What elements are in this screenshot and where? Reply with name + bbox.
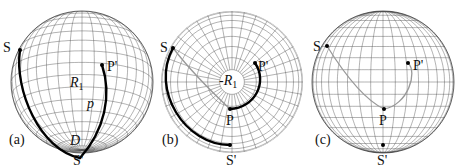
point-p-b xyxy=(228,107,232,111)
label-s-b: S xyxy=(160,40,168,55)
label-pprime-a: P' xyxy=(107,59,117,74)
label-d-a: D xyxy=(69,133,80,148)
panel-c: S P' P (c) S' xyxy=(312,11,454,167)
label-p-c: P xyxy=(379,113,387,128)
label-r1-b: -R1 xyxy=(219,73,237,90)
caption-c: (c) xyxy=(315,132,331,148)
path-s-to-sprime-b xyxy=(166,48,230,145)
figure: S P' R1 p D (a) S' S P' -R1 P (b) S' S P… xyxy=(0,0,455,167)
point-s-b xyxy=(171,46,175,50)
point-s-a xyxy=(18,48,22,52)
path-p-to-sprime-a xyxy=(80,65,106,158)
panel-b: S P' -R1 P (b) S' xyxy=(160,11,303,167)
label-s-a: S xyxy=(3,40,11,55)
point-s-c xyxy=(325,44,329,48)
label-r1-a: R1 xyxy=(69,75,84,92)
label-s-c: S xyxy=(313,39,321,54)
label-sprime-c: S' xyxy=(377,153,387,167)
point-pprime-c xyxy=(406,61,410,65)
label-sprime-a: S' xyxy=(73,153,83,167)
caption-a: (a) xyxy=(9,132,25,148)
sphere-grid-c xyxy=(312,11,454,153)
point-pprime-a xyxy=(100,63,104,67)
label-sprime-b: S' xyxy=(226,153,236,167)
label-pprime-c: P' xyxy=(413,58,423,73)
point-sprime-c xyxy=(381,143,385,147)
thin-path-s-p-pprime-c xyxy=(327,46,412,109)
panel-a: S P' R1 p D (a) S' xyxy=(3,11,153,167)
point-pprime-b xyxy=(253,61,257,65)
label-p-b: P xyxy=(226,113,234,128)
caption-b: (b) xyxy=(162,132,179,148)
label-pprime-b: P' xyxy=(258,59,268,74)
point-sprime-b xyxy=(228,143,232,147)
point-p-c xyxy=(382,107,386,111)
label-p-a: p xyxy=(86,96,94,111)
